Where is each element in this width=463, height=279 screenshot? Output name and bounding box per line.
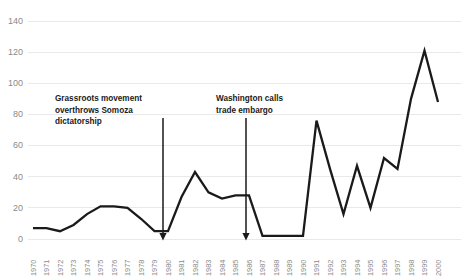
x-tick-label: 1995 [366,260,375,276]
x-tick-label: 1999 [420,260,429,276]
x-tick-label: 1981 [177,260,186,276]
x-axis-tick-labels: 1970197119721973197419751976197719781979… [29,260,443,276]
x-tick-label: 1983 [204,260,213,276]
annotation-somoza-line: dictatorship [55,117,102,126]
x-tick-label: 1975 [96,260,105,276]
annotation-somoza-line: overthrows Somoza [55,106,133,115]
x-tick-label: 1972 [56,260,65,276]
chart-container: 020406080100120140 197019711972197319741… [0,0,463,279]
y-tick-label: 100 [8,78,23,88]
annotation-embargo-line: Washington calls [216,94,283,103]
y-tick-label: 80 [13,109,23,119]
x-tick-label: 1984 [218,260,227,276]
y-axis-tick-labels: 020406080100120140 [8,16,23,244]
y-tick-label: 20 [13,203,23,213]
x-tick-label: 1987 [258,260,267,276]
x-tick-label: 1991 [312,260,321,276]
x-tick-label: 1971 [42,260,51,276]
y-tick-label: 40 [13,172,23,182]
annotation-somoza-line: Grassroots movement [55,94,142,103]
x-tick-label: 1985 [231,260,240,276]
x-tick-label: 1979 [150,260,159,276]
y-tick-label: 140 [8,16,23,26]
line-chart: 020406080100120140 197019711972197319741… [0,0,463,279]
x-tick-label: 1990 [299,260,308,276]
x-tick-label: 1986 [245,260,254,276]
x-tick-label: 1994 [353,260,362,276]
x-tick-label: 1982 [191,260,200,276]
x-tick-label: 1978 [137,260,146,276]
y-tick-label: 60 [13,140,23,150]
x-tick-label: 1976 [110,260,119,276]
annotations-layer: Grassroots movementoverthrows Somozadict… [55,94,283,241]
x-tick-label: 1973 [69,260,78,276]
x-tick-label: 1980 [164,260,173,276]
x-tick-label: 1989 [285,260,294,276]
x-tick-label: 1988 [272,260,281,276]
gridlines [28,21,461,239]
annotation-embargo-line: trade embargo [216,106,273,115]
annotation-embargo: Washington callstrade embargo [216,94,283,241]
y-tick-label: 120 [8,47,23,57]
x-tick-label: 1977 [123,260,132,276]
x-tick-label: 1997 [393,260,402,276]
y-tick-label: 0 [18,234,23,244]
x-tick-label: 1998 [407,260,416,276]
x-tick-label: 1974 [83,260,92,276]
x-tick-label: 2000 [434,260,443,276]
x-tick-label: 1993 [339,260,348,276]
x-tick-label: 1992 [326,260,335,276]
x-tick-label: 1996 [380,260,389,276]
x-tick-label: 1970 [29,260,38,276]
annotation-somoza: Grassroots movementoverthrows Somozadict… [55,94,167,241]
